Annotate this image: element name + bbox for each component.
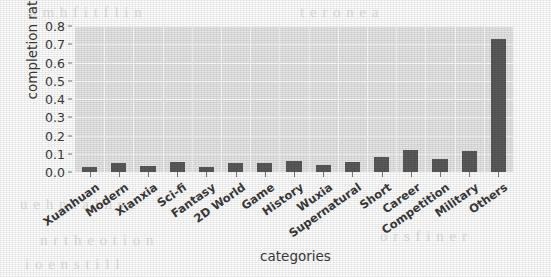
bar bbox=[257, 163, 272, 172]
y-tick-label: 0.1 bbox=[25, 146, 65, 161]
x-tick-mark bbox=[265, 172, 266, 177]
x-tick-mark bbox=[352, 172, 353, 177]
y-tick-label: 0.0 bbox=[25, 165, 65, 180]
x-tick-mark bbox=[206, 172, 207, 177]
bar bbox=[403, 150, 418, 172]
y-tick-label: 0.4 bbox=[25, 92, 65, 107]
y-tick-label: 0.7 bbox=[25, 37, 65, 52]
y-tick-mark bbox=[68, 153, 72, 154]
x-axis-label: categories bbox=[0, 248, 551, 264]
y-tick-mark bbox=[68, 117, 72, 118]
y-tick-label: 0.6 bbox=[25, 55, 65, 70]
x-tick-mark bbox=[294, 172, 295, 177]
bar-chart-figure: completion ratio 0.00.10.20.30.40.50.60.… bbox=[0, 0, 551, 277]
y-tick-mark bbox=[68, 80, 72, 81]
x-tick-mark bbox=[323, 172, 324, 177]
bar bbox=[170, 162, 185, 172]
y-tick-mark bbox=[68, 62, 72, 63]
bar bbox=[491, 39, 506, 172]
y-tick-mark bbox=[68, 99, 72, 100]
x-tick-mark bbox=[411, 172, 412, 177]
bar bbox=[111, 163, 126, 172]
bar bbox=[345, 162, 360, 172]
x-tick-mark bbox=[440, 172, 441, 177]
y-tick-mark bbox=[68, 172, 72, 173]
y-tick-mark bbox=[68, 44, 72, 45]
y-tick-label: 0.5 bbox=[25, 73, 65, 88]
bar bbox=[374, 157, 389, 172]
x-tick-mark bbox=[382, 172, 383, 177]
x-tick-mark bbox=[236, 172, 237, 177]
x-tick-mark bbox=[90, 172, 91, 177]
x-tick-mark bbox=[498, 172, 499, 177]
x-tick-mark bbox=[148, 172, 149, 177]
x-tick-mark bbox=[177, 172, 178, 177]
bar-series bbox=[75, 26, 513, 172]
bar bbox=[286, 161, 301, 172]
bar bbox=[228, 163, 243, 172]
y-tick-label: 0.8 bbox=[25, 19, 65, 34]
bar bbox=[316, 165, 331, 172]
bar bbox=[462, 151, 477, 172]
x-tick-mark bbox=[119, 172, 120, 177]
x-tick-mark bbox=[469, 172, 470, 177]
y-tick-label: 0.2 bbox=[25, 128, 65, 143]
bar bbox=[432, 159, 447, 172]
plot-area bbox=[75, 26, 513, 172]
y-tick-label: 0.3 bbox=[25, 110, 65, 125]
y-tick-mark bbox=[68, 135, 72, 136]
y-tick-mark bbox=[68, 26, 72, 27]
